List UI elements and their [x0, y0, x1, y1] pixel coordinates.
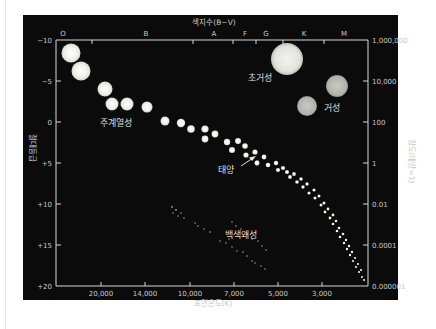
- lum-tick: 1: [372, 160, 376, 168]
- lum-tick: 0.000001: [372, 283, 405, 291]
- mag-tick: +10: [37, 201, 52, 209]
- top-axis-title: 색지수(B−V): [192, 17, 235, 27]
- axes: [56, 40, 368, 286]
- magnitude-tick-labels: −10 −5 0 +5 +10 +15 +20: [37, 37, 52, 291]
- mag-tick: 0: [48, 119, 52, 127]
- spectral-k: K: [302, 30, 307, 38]
- spectral-a: A: [212, 30, 217, 38]
- spectral-m: M: [341, 30, 347, 38]
- bottom-axis-title: 표면온도(K): [194, 298, 233, 308]
- giant-label: 거성: [324, 103, 340, 113]
- lum-tick: 100: [372, 119, 385, 127]
- temp-tick: 3,000: [312, 290, 332, 298]
- sun-label: 태양: [218, 165, 234, 175]
- luminosity-tick-labels: 1,000,000 10,000 100 1 0.01 0.0001 0.000…: [372, 37, 408, 291]
- main-sequence-stars: [62, 44, 366, 282]
- hr-diagram: 색지수(B−V) O B A F G K M −10 −5 0 +5 +10 +…: [0, 0, 436, 329]
- giant-star: [297, 96, 317, 116]
- sun-arrow-icon: [241, 156, 256, 166]
- mag-tick: −5: [42, 78, 52, 86]
- mag-tick: +15: [37, 242, 52, 250]
- mag-tick: +20: [37, 283, 52, 291]
- mag-tick: −10: [37, 37, 52, 45]
- temp-tick: 14,000: [133, 290, 158, 298]
- temp-tick: 7,000: [224, 290, 244, 298]
- temp-tick: 5,000: [268, 290, 288, 298]
- sun-star: [255, 161, 260, 166]
- white-dwarf-label: 백색왜성: [225, 230, 257, 240]
- lum-tick: 0.01: [372, 201, 388, 209]
- supergiant-star: [271, 43, 303, 75]
- giant-star: [326, 75, 348, 97]
- spectral-class-labels: O B A F G K M: [60, 30, 347, 38]
- mag-tick: +5: [42, 160, 52, 168]
- right-axis-title: 광도(태양=1): [407, 139, 417, 184]
- spectral-b: B: [144, 30, 149, 38]
- temperature-tick-labels: 20,000 14,000 10,000 7,000 5,000 3,000: [89, 290, 332, 298]
- lum-tick: 0.0001: [372, 242, 397, 250]
- spectral-o: O: [60, 30, 66, 38]
- main-sequence-label: 주계열성: [100, 117, 132, 128]
- left-axis-title: 절대등급: [28, 134, 37, 162]
- spectral-f: F: [243, 30, 247, 38]
- spectral-g: G: [263, 30, 268, 38]
- temp-tick: 10,000: [178, 290, 203, 298]
- lum-tick: 10,000: [372, 78, 397, 86]
- supergiant-label: 초거성: [248, 73, 272, 83]
- lum-tick: 1,000,000: [372, 37, 408, 45]
- temp-tick: 20,000: [89, 290, 114, 298]
